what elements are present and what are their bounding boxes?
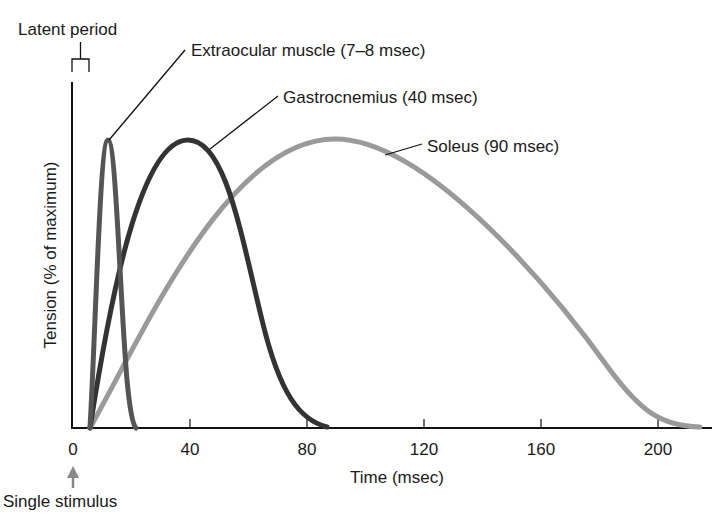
- gastrocnemius-label: Gastrocnemius (40 msec): [283, 88, 478, 107]
- extraocular-label: Extraocular muscle (7–8 msec): [191, 41, 425, 60]
- latent-period-label: Latent period: [18, 20, 117, 39]
- gastrocnemius-leader-line: [210, 96, 278, 149]
- y-axis-label: Tension (% of maximum): [41, 161, 60, 348]
- soleus-curve: [90, 139, 700, 428]
- tick-label: 80: [298, 440, 317, 459]
- x-ticks: [190, 419, 658, 428]
- x-tick-labels: 0 40 80 120 160 200: [68, 440, 672, 459]
- twitch-tension-chart: 0 40 80 120 160 200 Time (msec) Tension …: [0, 0, 722, 526]
- soleus-label: Soleus (90 msec): [427, 137, 559, 156]
- tick-label: 200: [644, 440, 672, 459]
- extraocular-leader-line: [109, 50, 185, 140]
- tick-label: 160: [527, 440, 555, 459]
- tick-label: 120: [410, 440, 438, 459]
- single-stimulus-label: Single stimulus: [3, 492, 117, 511]
- soleus-leader-line: [385, 144, 422, 155]
- tick-label: 40: [181, 440, 200, 459]
- x-axis-label: Time (msec): [350, 468, 444, 487]
- latent-period-bracket: [72, 42, 89, 72]
- tick-label: 0: [68, 440, 77, 459]
- single-stimulus-arrow-icon: [67, 466, 79, 488]
